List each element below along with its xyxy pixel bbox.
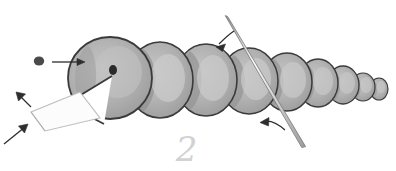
- figure-canvas: 2: [0, 0, 396, 171]
- arrow-to-needle-lower: [260, 118, 285, 131]
- arrow-to-sheet-lower: [4, 124, 28, 144]
- watermark-label: 2: [152, 128, 222, 170]
- arrow-to-head: [52, 59, 85, 66]
- arrow-to-sheet-upper: [16, 92, 31, 107]
- arrow-to-needle-upper: [216, 31, 234, 52]
- marker-dot: [34, 56, 44, 65]
- eye-dot: [109, 65, 117, 75]
- body-segments-group: [66, 37, 388, 124]
